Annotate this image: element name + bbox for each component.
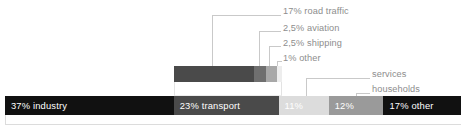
callout-label-road-traffic: 17% road traffic	[283, 6, 349, 16]
callout-label-transport-other: 1% other	[283, 53, 321, 63]
detail-segment-road-traffic[interactable]	[174, 66, 254, 82]
bar-segment-industry[interactable]: 37% industry	[5, 96, 174, 115]
leader-line-services-vertical	[306, 78, 307, 96]
detail-segment-shipping[interactable]	[266, 66, 278, 82]
leader-line-shipping-horizontal	[269, 46, 281, 47]
bar-segment-other[interactable]: 17% other	[383, 96, 461, 115]
leader-line-households-horizontal	[356, 93, 370, 94]
leader-line-shipping-vertical	[269, 46, 270, 66]
detail-segment-other[interactable]	[277, 66, 282, 82]
bar-segment-households[interactable]: 12%	[329, 96, 384, 115]
leader-line-road-traffic-vertical	[212, 15, 213, 66]
leader-line-services-horizontal	[306, 78, 370, 79]
bar-label-industry: 37% industry	[5, 100, 67, 111]
bar-label-other: 17% other	[383, 100, 433, 111]
main-stacked-bar: 37% industry 23% transport 11% 12% 17% o…	[5, 96, 461, 115]
bar-label-services: 11%	[279, 100, 304, 111]
leader-line-aviation-vertical	[259, 31, 260, 66]
leader-line-road-traffic-horizontal	[212, 15, 281, 16]
callout-label-households: households	[372, 84, 420, 94]
callout-label-aviation: 2,5% aviation	[283, 23, 339, 33]
bar-label-households: 12%	[329, 100, 354, 111]
baseline-rule	[5, 124, 461, 125]
leader-line-aviation-horizontal	[259, 31, 281, 32]
callout-label-shipping: 2,5% shipping	[283, 38, 342, 48]
detail-segment-aviation[interactable]	[254, 66, 266, 82]
bar-segment-services[interactable]: 11%	[279, 96, 329, 115]
transport-breakdown-bar	[174, 66, 282, 82]
bar-segment-transport[interactable]: 23% transport	[174, 96, 279, 115]
infographic-stacked-bar-chart: 17% road traffic 2,5% aviation 2,5% ship…	[0, 0, 466, 135]
bar-label-transport: 23% transport	[174, 100, 240, 111]
breakdown-connector	[174, 82, 282, 96]
callout-label-services: services	[372, 69, 407, 79]
